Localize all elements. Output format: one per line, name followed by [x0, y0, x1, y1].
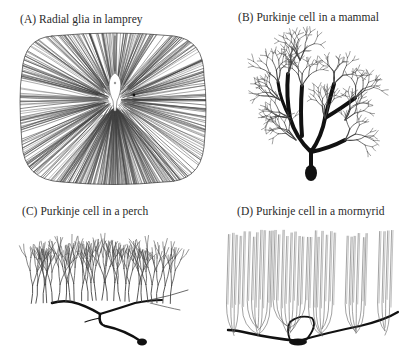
- panel-d-label: (D) Purkinje cell in a mormyrid: [237, 205, 385, 217]
- panel-a-radial-glia-drawing: [0, 0, 255, 240]
- panel-a-label: (A) Radial glia in lamprey: [20, 13, 143, 25]
- panel-c-label: (C) Purkinje cell in a perch: [22, 205, 148, 217]
- panel-b-label: (B) Purkinje cell in a mammal: [238, 11, 379, 23]
- panel-d-mormyrid-purkinje-drawing: [227, 230, 399, 345]
- illustration-canvas: [0, 0, 410, 362]
- panel-c-perch-purkinje-drawing: [19, 233, 189, 345]
- figure-neural-cells: (A) Radial glia in lamprey (B) Purkinje …: [0, 0, 410, 362]
- panel-b-mammal-purkinje-drawing: [248, 27, 389, 181]
